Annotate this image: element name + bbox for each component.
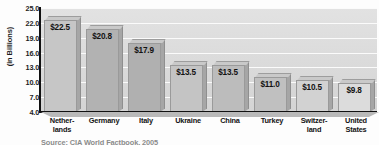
x-axis-category-label: Turkey	[251, 116, 293, 125]
bar-side-face	[77, 17, 81, 112]
y-axis-line	[39, 7, 41, 113]
x-axis-category-label: Germany	[83, 116, 125, 125]
x-axis-category-label: UnitedStates	[335, 116, 377, 134]
bar-value-label: $10.5	[296, 83, 329, 92]
bar: $13.5	[212, 65, 245, 112]
bar-value-label: $13.5	[212, 68, 245, 77]
y-axis-tick-label: 10.0	[13, 78, 39, 87]
x-axis-category-label: Ukraine	[167, 116, 209, 125]
bar-value-label: $22.5	[44, 23, 77, 32]
y-axis-tick-label: 13.0	[13, 63, 39, 72]
y-axis-tick-labels: 25.022.019.016.013.010.07.04.0	[13, 0, 39, 116]
plot-area: $22.5$20.8$17.9$13.5$13.5$11.0$10.5$9.8	[41, 8, 377, 112]
bar-side-face	[371, 80, 375, 112]
bar-side-face	[329, 76, 333, 111]
bar-side-face	[161, 40, 165, 112]
bar: $11.0	[254, 77, 287, 112]
gridline	[41, 23, 377, 24]
bar: $13.5	[170, 65, 203, 112]
bar-front-face	[44, 20, 77, 112]
source-note: Source: CIA World Factbook, 2005	[41, 138, 158, 145]
y-axis-tick-label: 4.0	[13, 108, 39, 117]
bar-front-face	[86, 29, 119, 112]
bar: $10.5	[296, 80, 329, 112]
bar-side-face	[119, 25, 123, 111]
bar: $17.9	[128, 43, 161, 112]
bar-side-face	[203, 61, 207, 111]
gridline	[41, 8, 377, 9]
x-axis-category-label: Italy	[125, 116, 167, 125]
bar: $22.5	[44, 20, 77, 112]
bar-side-face	[287, 74, 291, 112]
x-axis-category-label: Switzer-land	[293, 116, 335, 134]
y-axis-tick-label: 16.0	[13, 48, 39, 57]
y-axis-tick-label: 19.0	[13, 33, 39, 42]
bar-value-label: $17.9	[128, 46, 161, 55]
bar-value-label: $11.0	[254, 80, 287, 89]
bar-side-face	[245, 61, 249, 111]
bar-value-label: $13.5	[170, 68, 203, 77]
bar: $9.8	[338, 83, 371, 112]
x-axis-category-label: China	[209, 116, 251, 125]
bar: $20.8	[86, 29, 119, 112]
bar-chart: (in Billions) 25.022.019.016.013.010.07.…	[0, 0, 379, 145]
y-axis-tick-label: 22.0	[13, 18, 39, 27]
y-axis-tick-label: 25.0	[13, 4, 39, 13]
y-axis-tick-label: 7.0	[13, 93, 39, 102]
bar-value-label: $20.8	[86, 32, 119, 41]
x-axis-category-label: Nether-lands	[41, 116, 83, 134]
bar-value-label: $9.8	[338, 86, 371, 95]
